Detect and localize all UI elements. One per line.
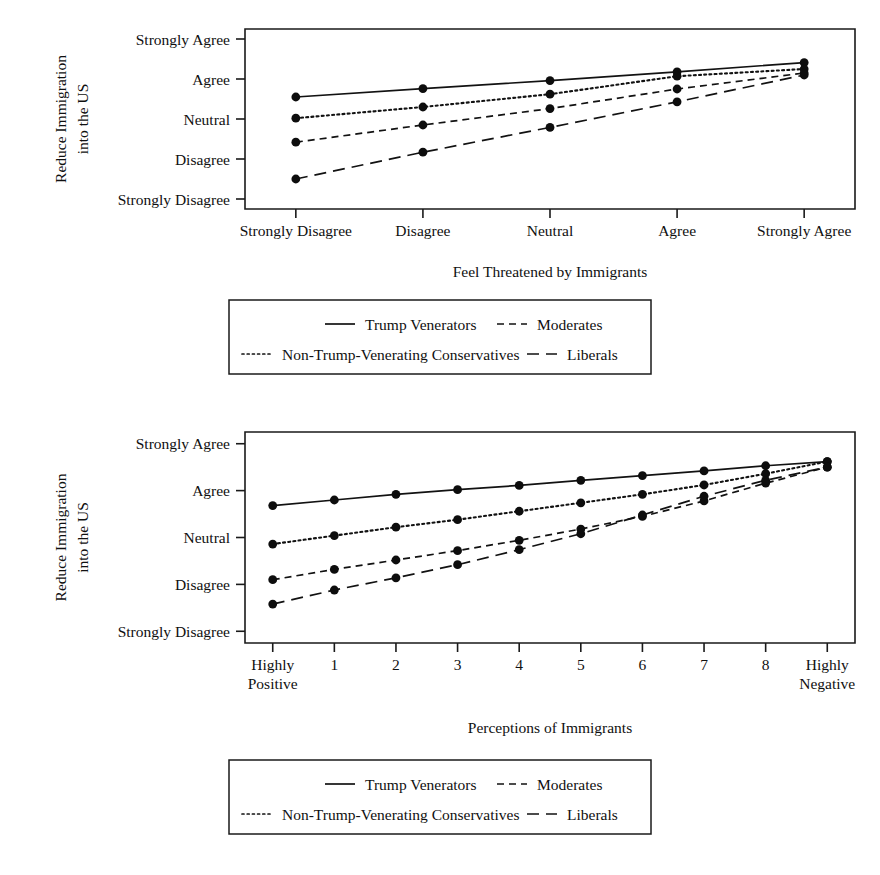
data-point-marker xyxy=(800,71,809,80)
data-point-marker xyxy=(546,104,555,113)
data-point-marker xyxy=(419,84,428,93)
x-axis-tick-label: 7 xyxy=(700,656,708,673)
x-axis-tick-label: 4 xyxy=(515,656,523,673)
bottom-chart-panel: Strongly DisagreeDisagreeNeutralAgreeStr… xyxy=(0,400,880,875)
data-point-marker xyxy=(515,481,524,490)
data-point-marker xyxy=(700,492,709,501)
y-axis-tick-label: Disagree xyxy=(175,151,230,168)
series-line-solid xyxy=(273,462,828,506)
data-point-marker xyxy=(330,586,339,595)
data-point-marker xyxy=(546,90,555,99)
legend-label: Trump Venerators xyxy=(365,316,477,333)
svg-text:Reduce Immigration: Reduce Immigration xyxy=(52,473,69,601)
series-line-longdash xyxy=(273,467,828,604)
data-point-marker xyxy=(761,461,770,470)
x-axis-title: Perceptions of Immigrants xyxy=(468,719,632,736)
data-point-marker xyxy=(291,175,300,184)
data-point-marker xyxy=(419,103,428,112)
y-axis-title: Reduce Immigrationinto the US xyxy=(52,473,91,601)
data-point-marker xyxy=(392,556,401,565)
y-axis-tick-label: Neutral xyxy=(184,529,230,546)
data-point-marker xyxy=(268,575,277,584)
data-point-marker xyxy=(291,93,300,102)
x-axis-tick-label: 3 xyxy=(454,656,462,673)
data-point-marker xyxy=(330,565,339,574)
y-axis-tick-label: Neutral xyxy=(184,111,230,128)
data-point-marker xyxy=(453,560,462,569)
data-point-marker xyxy=(268,600,277,609)
x-axis-tick-label: Strongly Disagree xyxy=(240,222,352,239)
data-point-marker xyxy=(673,85,682,94)
legend-box xyxy=(229,760,651,834)
data-point-marker xyxy=(638,490,647,499)
svg-text:into the US: into the US xyxy=(74,502,91,573)
data-point-marker xyxy=(700,467,709,476)
data-point-marker xyxy=(392,490,401,499)
x-axis-tick-label: Disagree xyxy=(395,222,450,239)
top-chart-svg: Strongly DisagreeDisagreeNeutralAgreeStr… xyxy=(0,0,880,400)
data-point-marker xyxy=(453,515,462,524)
data-point-marker xyxy=(546,123,555,132)
y-axis-tick-label: Strongly Agree xyxy=(136,435,230,452)
data-point-marker xyxy=(392,573,401,582)
data-point-marker xyxy=(291,114,300,123)
y-axis-tick-label: Agree xyxy=(192,71,230,88)
legend-box xyxy=(229,300,651,374)
y-axis-tick-label: Strongly Disagree xyxy=(118,623,230,640)
data-point-marker xyxy=(576,498,585,507)
data-point-marker xyxy=(291,138,300,147)
data-point-marker xyxy=(823,463,832,472)
data-point-marker xyxy=(576,476,585,485)
x-axis-tick-label: HighlyPositive xyxy=(248,656,298,692)
y-axis-tick-label: Strongly Agree xyxy=(136,31,230,48)
x-axis-tick-label: Agree xyxy=(658,222,696,239)
x-axis-tick-label: 6 xyxy=(639,656,647,673)
y-axis-title: Reduce Immigrationinto the US xyxy=(52,55,91,183)
data-point-marker xyxy=(330,531,339,540)
data-point-marker xyxy=(419,148,428,157)
y-axis-tick-label: Agree xyxy=(192,482,230,499)
legend-label: Non-Trump-Venerating Conservatives xyxy=(282,806,520,823)
svg-text:into the US: into the US xyxy=(74,84,91,155)
series-line-dotted xyxy=(273,462,828,545)
data-point-marker xyxy=(673,72,682,81)
data-point-marker xyxy=(638,471,647,480)
data-point-marker xyxy=(761,476,770,485)
data-point-marker xyxy=(515,507,524,516)
x-axis-tick-label: 8 xyxy=(762,656,770,673)
bottom-chart-svg: Strongly DisagreeDisagreeNeutralAgreeStr… xyxy=(0,400,880,875)
top-chart-panel: Strongly DisagreeDisagreeNeutralAgreeStr… xyxy=(0,0,880,400)
data-point-marker xyxy=(330,496,339,505)
data-point-marker xyxy=(268,540,277,549)
x-axis-tick-label: Neutral xyxy=(527,222,573,239)
legend-label: Moderates xyxy=(537,316,602,333)
x-axis-title: Feel Threatened by Immigrants xyxy=(453,263,648,280)
data-point-marker xyxy=(700,481,709,490)
y-axis-tick-label: Disagree xyxy=(175,576,230,593)
legend-label: Non-Trump-Venerating Conservatives xyxy=(282,346,520,363)
data-point-marker xyxy=(515,545,524,554)
legend-label: Liberals xyxy=(567,346,618,363)
svg-text:Reduce Immigration: Reduce Immigration xyxy=(52,55,69,183)
data-point-marker xyxy=(268,501,277,510)
x-axis-tick-label: HighlyNegative xyxy=(799,656,855,692)
y-axis-tick-label: Strongly Disagree xyxy=(118,191,230,208)
series-line-dashed xyxy=(273,467,828,580)
data-point-marker xyxy=(453,546,462,555)
x-axis-tick-label: 5 xyxy=(577,656,585,673)
x-axis-tick-label: 2 xyxy=(392,656,400,673)
data-point-marker xyxy=(576,529,585,538)
x-axis-tick-label: Strongly Agree xyxy=(757,222,851,239)
plot-frame xyxy=(245,29,855,209)
x-axis-tick-label: 1 xyxy=(330,656,338,673)
legend-label: Liberals xyxy=(567,806,618,823)
data-point-marker xyxy=(546,76,555,85)
legend-label: Trump Venerators xyxy=(365,776,477,793)
data-point-marker xyxy=(453,485,462,494)
data-point-marker xyxy=(515,536,524,545)
data-point-marker xyxy=(673,97,682,106)
data-point-marker xyxy=(392,523,401,532)
data-point-marker xyxy=(638,511,647,520)
legend-label: Moderates xyxy=(537,776,602,793)
data-point-marker xyxy=(419,121,428,130)
